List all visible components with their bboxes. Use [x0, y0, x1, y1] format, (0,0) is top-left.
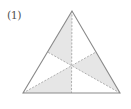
shaded-region-right	[72, 52, 120, 93]
triangle-diagram	[0, 0, 131, 109]
shaded-region-top	[48, 11, 73, 66]
